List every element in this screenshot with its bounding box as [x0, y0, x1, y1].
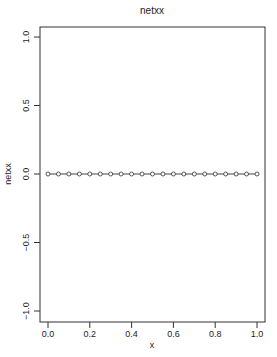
x-tick-label: 0.8	[209, 329, 222, 339]
data-point	[161, 172, 165, 176]
data-point	[67, 172, 71, 176]
x-axis: 0.00.20.40.60.81.0	[42, 322, 264, 339]
x-tick-label: 1.0	[251, 329, 264, 339]
y-axis: −1.0−0.50.00.51.0	[21, 31, 40, 320]
x-tick-label: 0.6	[167, 329, 180, 339]
data-point	[46, 172, 50, 176]
chart-title: netxx	[140, 5, 164, 16]
data-point	[245, 172, 249, 176]
y-tick-label: 1.0	[21, 31, 31, 44]
data-point	[234, 172, 238, 176]
data-point	[56, 172, 60, 176]
y-tick-label: 0.0	[21, 168, 31, 181]
data-point	[109, 172, 113, 176]
y-tick-label: 0.5	[21, 99, 31, 112]
data-point	[255, 172, 259, 176]
x-tick-label: 0.0	[42, 329, 55, 339]
data-point	[151, 172, 155, 176]
chart: netxx −1.0−0.50.00.51.0 0.00.20.40.60.81…	[0, 0, 277, 357]
data-point	[182, 172, 186, 176]
data-point	[130, 172, 134, 176]
y-tick-label: −0.5	[21, 234, 31, 252]
x-tick-label: 0.2	[84, 329, 97, 339]
data-point	[224, 172, 228, 176]
data-point	[192, 172, 196, 176]
data-point	[98, 172, 102, 176]
x-tick-label: 0.4	[125, 329, 138, 339]
data-point	[88, 172, 92, 176]
data-point	[213, 172, 217, 176]
x-axis-label: x	[150, 340, 155, 350]
y-tick-label: −1.0	[21, 302, 31, 320]
data-series	[46, 172, 259, 176]
data-point	[140, 172, 144, 176]
data-point	[171, 172, 175, 176]
data-point	[77, 172, 81, 176]
data-point	[119, 172, 123, 176]
data-point	[203, 172, 207, 176]
y-axis-label: netxx	[3, 163, 13, 185]
